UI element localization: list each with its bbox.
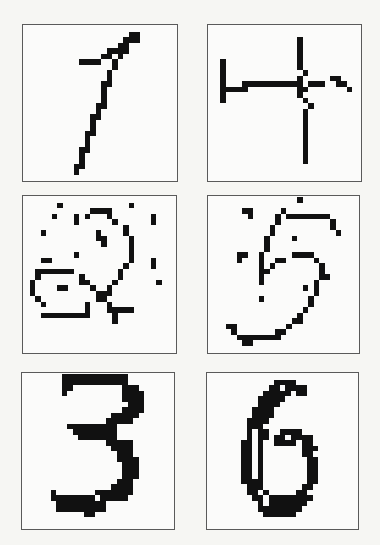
digit-panel-3 (21, 372, 175, 530)
digit-bitmap (209, 26, 363, 180)
digit-panel-4 (207, 24, 362, 182)
digit-panel-5 (207, 195, 360, 354)
digit-bitmap (24, 197, 178, 351)
digit-bitmap (208, 374, 362, 528)
digit-panel-2 (22, 195, 177, 354)
digit-bitmap (24, 26, 178, 180)
digit-bitmap (23, 374, 177, 528)
digit-panel-1 (22, 24, 178, 182)
digit-bitmap (209, 197, 363, 351)
digit-panel-6 (206, 372, 359, 530)
